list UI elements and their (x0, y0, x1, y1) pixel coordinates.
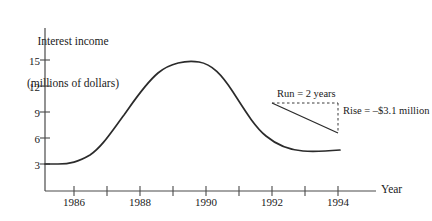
interest-income-curve (45, 61, 340, 164)
secant-line (272, 103, 338, 133)
interest-income-line-chart: Interest income (millions of dollars) 15… (0, 0, 432, 221)
chart-svg (0, 0, 432, 221)
